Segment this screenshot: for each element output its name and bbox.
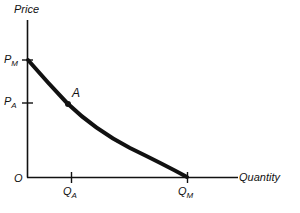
- origin-label: O: [14, 173, 23, 184]
- x-axis-label: Quantity: [239, 172, 280, 183]
- tick-label-qa: QA: [63, 186, 77, 197]
- demand-curve: [28, 60, 187, 177]
- point-a-label: A: [72, 87, 80, 99]
- tick-label-qa-main: Q: [63, 185, 72, 197]
- tick-label-pm: PM: [4, 54, 18, 65]
- tick-label-qm-sub: M: [187, 191, 194, 200]
- tick-label-pm-sub: M: [11, 59, 18, 68]
- tick-label-pa: PA: [4, 96, 17, 107]
- tick-label-qm-main: Q: [178, 185, 187, 197]
- tick-label-qm: QM: [178, 186, 193, 197]
- tick-label-qa-sub: A: [72, 191, 77, 200]
- point-a-dot: [65, 101, 71, 107]
- y-axis-label: Price: [14, 4, 39, 15]
- tick-label-pa-sub: A: [11, 101, 16, 110]
- demand-diagram: Price PM PA A O QA QM Quantity: [0, 0, 300, 213]
